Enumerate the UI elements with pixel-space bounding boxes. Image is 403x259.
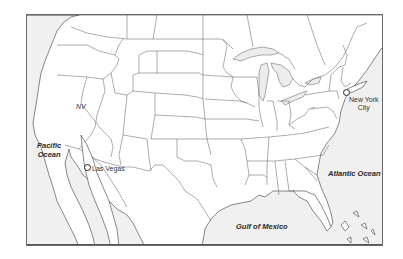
nevada-label: NV <box>76 103 86 110</box>
new-york-city-label: New York City <box>349 96 379 111</box>
nyc-label-line-2: City <box>349 104 379 111</box>
map-frame: Pacific Ocean Atlantic Ocean Gulf of Mex… <box>26 14 383 246</box>
new-york-city-circle-marker-icon[interactable] <box>343 89 350 96</box>
pacific-ocean-label: Pacific Ocean <box>37 142 61 158</box>
pacific-label-line-1: Pacific <box>37 142 61 150</box>
atlantic-ocean-label: Atlantic Ocean <box>328 170 381 178</box>
gulf-of-mexico-label: Gulf of Mexico <box>236 223 288 231</box>
pacific-label-line-2: Ocean <box>37 151 61 159</box>
las-vegas-circle-marker-icon[interactable] <box>84 164 91 171</box>
us-map-svg <box>27 15 383 246</box>
las-vegas-label: Las Vegas <box>92 165 125 172</box>
bahamas-islands <box>341 211 375 243</box>
nyc-label-line-1: New York <box>349 96 379 103</box>
